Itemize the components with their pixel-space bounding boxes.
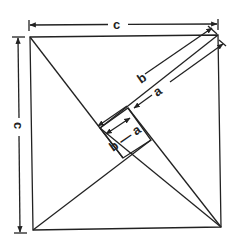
pythagorean-diagram: c c b a b — a (0, 0, 239, 246)
top-dimension-left (30, 25, 108, 26)
short-leg-label: a (150, 83, 165, 100)
a-dimension-upper (170, 44, 223, 82)
top-side-label: c (113, 17, 120, 32)
triangle-edge-4 (100, 35, 218, 128)
left-side-label: c (11, 122, 26, 129)
left-dimension-top (18, 38, 19, 118)
triangle-edge-5 (128, 108, 221, 227)
left-dimension-bottom (19, 136, 20, 232)
triangle-edge-2 (33, 140, 151, 230)
a-dimension-lower (134, 95, 152, 108)
